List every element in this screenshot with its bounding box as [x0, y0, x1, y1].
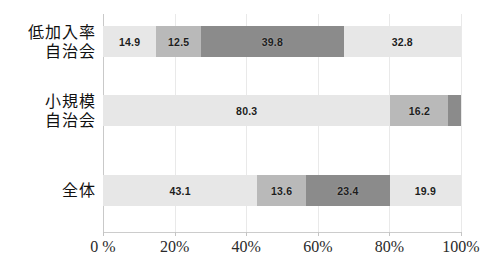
x-axis-tick-label: 0 % [90, 238, 115, 256]
category-label: 全体 [0, 181, 96, 200]
bar-row: 14.912.539.832.8 [103, 26, 461, 57]
tickmark-100 [461, 232, 462, 236]
x-axis-tick-label: 20% [160, 238, 189, 256]
bar-segment-value: 19.9 [415, 185, 436, 197]
category-label: 低加入率自治会 [0, 23, 96, 61]
x-axis-tick-label: 60% [303, 238, 332, 256]
stacked-bar-chart: 14.912.539.832.880.316.243.113.623.419.9… [0, 0, 494, 279]
plot-area: 14.912.539.832.880.316.243.113.623.419.9 [103, 14, 461, 232]
category-label-line: 小規模 [0, 92, 96, 111]
bar-segment: 39.8 [201, 26, 343, 57]
tickmark-0 [103, 232, 104, 236]
category-label-line: 自治会 [0, 111, 96, 130]
bar-segment: 43.1 [103, 175, 257, 206]
category-label: 小規模自治会 [0, 92, 96, 130]
gridline-100 [461, 14, 462, 232]
bar-segment: 14.9 [103, 26, 156, 57]
bar-segment-value: 13.6 [271, 185, 292, 197]
bar-segment-value: 39.8 [262, 36, 283, 48]
category-label-line: 低加入率 [0, 23, 96, 42]
bar-segment: 19.9 [390, 175, 461, 206]
tickmark-60 [318, 232, 319, 236]
bar-segment [448, 95, 461, 126]
x-axis-tick-label: 40% [232, 238, 261, 256]
bar-segment-value: 14.9 [119, 36, 140, 48]
bar-segment: 16.2 [390, 95, 448, 126]
bar-segment-value: 12.5 [168, 36, 189, 48]
bar-segment-value: 32.8 [392, 36, 413, 48]
bar-segment: 13.6 [257, 175, 306, 206]
bar-segment-value: 16.2 [409, 105, 430, 117]
tickmark-80 [389, 232, 390, 236]
bar-segment-value: 23.4 [337, 185, 358, 197]
x-axis-tick-label: 100% [442, 238, 479, 256]
bar-segment-value: 43.1 [170, 185, 191, 197]
bar-segment: 80.3 [103, 95, 390, 126]
bar-row: 43.113.623.419.9 [103, 175, 461, 206]
x-axis-labels: 0 %20%40%60%80%100% [103, 238, 461, 266]
x-axis-tick-label: 80% [375, 238, 404, 256]
bar-segment: 12.5 [156, 26, 201, 57]
bar-segment: 32.8 [344, 26, 461, 57]
bar-segment: 23.4 [306, 175, 390, 206]
tickmark-20 [175, 232, 176, 236]
category-label-line: 全体 [0, 181, 96, 200]
category-label-line: 自治会 [0, 42, 96, 61]
bar-row: 80.316.2 [103, 95, 461, 126]
tickmark-40 [246, 232, 247, 236]
x-axis-line [103, 232, 462, 233]
bar-segment-value: 80.3 [236, 105, 257, 117]
